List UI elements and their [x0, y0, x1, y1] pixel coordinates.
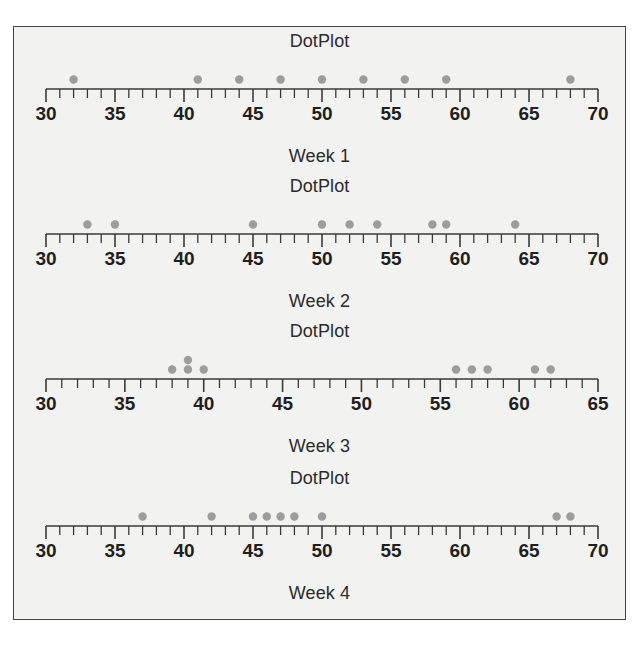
- axis-tick-label: 35: [104, 103, 126, 124]
- axis-tick-label: 60: [449, 103, 470, 124]
- number-line-axis: 3035404550556065: [14, 349, 625, 415]
- plot-title: DotPlot: [14, 31, 625, 52]
- data-dot: [566, 75, 574, 83]
- axis-tick-label: 70: [587, 103, 608, 124]
- data-dot: [83, 220, 91, 228]
- axis-tick-label: 45: [242, 248, 264, 269]
- data-dot: [249, 512, 257, 520]
- data-dot: [452, 365, 460, 373]
- data-dot: [531, 365, 539, 373]
- axis-tick-label: 30: [35, 393, 56, 414]
- dotplot-panel: DotPlot 303540455055606570 Week 1: [14, 27, 625, 169]
- data-dot: [276, 75, 284, 83]
- plot-title: DotPlot: [14, 176, 625, 197]
- data-dot: [276, 512, 284, 520]
- axis-tick-label: 55: [380, 103, 402, 124]
- data-dot: [546, 365, 554, 373]
- axis-tick-label: 50: [351, 393, 372, 414]
- plot-xlabel: Week 4: [14, 583, 625, 604]
- axis-tick-label: 40: [173, 103, 194, 124]
- axis-tick-label: 55: [380, 248, 402, 269]
- axis-tick-label: 50: [311, 103, 332, 124]
- axis-tick-label: 55: [430, 393, 452, 414]
- data-dot: [428, 220, 436, 228]
- axis-tick-label: 60: [509, 393, 530, 414]
- axis-tick-label: 70: [587, 540, 608, 561]
- data-dot: [207, 512, 215, 520]
- axis-tick-label: 40: [173, 540, 194, 561]
- axis-tick-label: 70: [587, 248, 608, 269]
- plot-title: DotPlot: [14, 468, 625, 489]
- data-dot: [442, 75, 450, 83]
- data-dot: [111, 220, 119, 228]
- number-line-axis: 303540455055606570: [14, 496, 625, 562]
- data-dot: [511, 220, 519, 228]
- plot-axis-area: 303540455055606570: [14, 59, 625, 137]
- data-dot: [249, 220, 257, 228]
- data-dot: [194, 75, 202, 83]
- axis-tick-label: 30: [35, 248, 56, 269]
- data-dot: [290, 512, 298, 520]
- data-dot: [184, 365, 192, 373]
- data-dot: [200, 365, 208, 373]
- data-dot: [401, 75, 409, 83]
- plot-axis-area: 303540455055606570: [14, 204, 625, 282]
- plot-xlabel: Week 3: [14, 436, 625, 457]
- axis-tick-label: 30: [35, 540, 56, 561]
- data-dot: [263, 512, 271, 520]
- plot-xlabel: Week 2: [14, 291, 625, 312]
- data-dot: [345, 220, 353, 228]
- number-line-axis: 303540455055606570: [14, 59, 625, 125]
- data-dot: [359, 75, 367, 83]
- dotplot-panel: DotPlot 3035404550556065 Week 3: [14, 317, 625, 459]
- axis-tick-label: 35: [114, 393, 136, 414]
- number-line-axis: 303540455055606570: [14, 204, 625, 270]
- data-dot: [373, 220, 381, 228]
- figure-frame: DotPlot 303540455055606570 Week 1 DotPlo…: [13, 26, 626, 620]
- data-dot: [184, 356, 192, 364]
- data-dot: [566, 512, 574, 520]
- axis-tick-label: 50: [311, 540, 332, 561]
- axis-tick-label: 45: [242, 103, 264, 124]
- axis-tick-label: 65: [518, 248, 540, 269]
- data-dot: [318, 75, 326, 83]
- axis-tick-label: 30: [35, 103, 56, 124]
- data-dot: [552, 512, 560, 520]
- axis-tick-label: 35: [104, 540, 126, 561]
- axis-tick-label: 50: [311, 248, 332, 269]
- axis-tick-label: 40: [173, 248, 194, 269]
- data-dot: [442, 220, 450, 228]
- axis-tick-label: 55: [380, 540, 402, 561]
- axis-tick-label: 65: [518, 540, 540, 561]
- data-dot: [69, 75, 77, 83]
- data-dot: [168, 365, 176, 373]
- axis-tick-label: 65: [518, 103, 540, 124]
- data-dot: [483, 365, 491, 373]
- dotplot-panel: DotPlot 303540455055606570 Week 2: [14, 172, 625, 314]
- axis-tick-label: 45: [272, 393, 294, 414]
- axis-tick-label: 40: [193, 393, 214, 414]
- plot-axis-area: 303540455055606570: [14, 496, 625, 574]
- plot-title: DotPlot: [14, 321, 625, 342]
- data-dot: [235, 75, 243, 83]
- axis-tick-label: 60: [449, 248, 470, 269]
- data-dot: [468, 365, 476, 373]
- axis-tick-label: 65: [587, 393, 609, 414]
- axis-tick-label: 60: [449, 540, 470, 561]
- axis-tick-label: 45: [242, 540, 264, 561]
- plot-axis-area: 3035404550556065: [14, 349, 625, 427]
- plot-xlabel: Week 1: [14, 146, 625, 167]
- axis-tick-label: 35: [104, 248, 126, 269]
- data-dot: [138, 512, 146, 520]
- dotplot-panel: DotPlot 303540455055606570 Week 4: [14, 464, 625, 606]
- data-dot: [318, 512, 326, 520]
- data-dot: [318, 220, 326, 228]
